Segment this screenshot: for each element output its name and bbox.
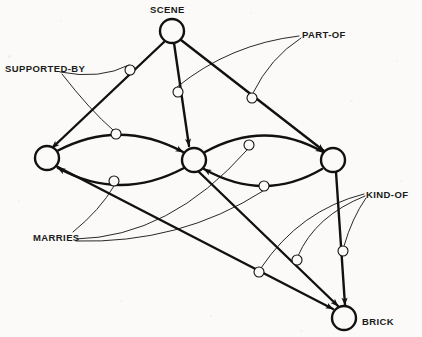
relation-label-part-of: PART-OF xyxy=(302,30,346,40)
relation-label-kind-of: KIND-OF xyxy=(366,190,408,200)
relation-label-marries: MARRIES xyxy=(33,233,80,243)
scan-speckle-6 xyxy=(210,315,212,317)
relation-marker-m8 xyxy=(254,267,264,277)
relation-marker-m5 xyxy=(244,140,254,150)
relation-marker-m1 xyxy=(125,65,135,75)
node-label-scene: SCENE xyxy=(150,5,185,15)
relation-marker-m9 xyxy=(292,255,302,265)
relation-marker-layer xyxy=(109,65,348,277)
thin-connector-t-partof-m3 xyxy=(253,38,301,93)
thick-edge-layer xyxy=(52,40,345,309)
graph-svg xyxy=(0,0,422,337)
node-label-brick: BRICK xyxy=(362,317,394,327)
scan-speckle-9 xyxy=(250,12,252,14)
scan-speckle-1 xyxy=(350,100,353,102)
scan-speckle-8 xyxy=(396,60,398,62)
scan-speckle-3 xyxy=(120,300,122,302)
node-n_mid[interactable] xyxy=(182,148,206,172)
thin-connector-t-kindof-m9 xyxy=(298,196,365,256)
thin-edge-layer xyxy=(60,36,366,268)
relation-marker-m7 xyxy=(259,181,269,191)
relation-marker-m3 xyxy=(247,93,257,103)
node-n_right[interactable] xyxy=(321,148,345,172)
scan-speckle-4 xyxy=(60,20,62,22)
diagram-canvas: SCENEBRICKPART-OFSUPPORTED-BYKIND-OFMARR… xyxy=(0,0,422,337)
relation-marker-m4 xyxy=(111,129,121,139)
relation-marker-m10 xyxy=(338,246,348,256)
thin-connector-t-partof-m2 xyxy=(177,36,299,87)
relation-marker-m6 xyxy=(109,176,119,186)
scan-speckle-0 xyxy=(8,55,11,58)
thin-connector-t-marries-m7 xyxy=(76,191,263,241)
node-n_left[interactable] xyxy=(35,146,59,170)
relation-marker-m2 xyxy=(173,87,183,97)
scan-speckle-7 xyxy=(18,200,20,202)
node-scene[interactable] xyxy=(160,19,184,43)
relation-label-supported-by: SUPPORTED-BY xyxy=(5,64,85,74)
scan-speckle-2 xyxy=(400,180,402,182)
thin-connector-t-supportedby-m4 xyxy=(62,74,113,130)
edge-e-right-brick xyxy=(336,172,345,305)
edge-e-scene-left xyxy=(52,42,164,148)
scan-speckle-5 xyxy=(300,330,303,332)
node-brick[interactable] xyxy=(332,306,356,330)
edge-e-mid-brick xyxy=(199,172,338,306)
thin-connector-t-kindof-m10 xyxy=(344,198,366,246)
